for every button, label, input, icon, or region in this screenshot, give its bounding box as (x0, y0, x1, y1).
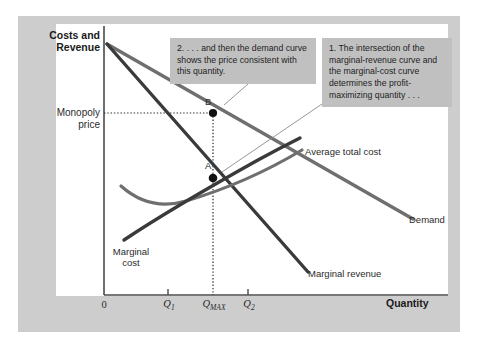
point-b-label: B (205, 96, 211, 107)
point-a-marker (209, 174, 218, 183)
x-tick-label-q2: Q2 (235, 298, 263, 313)
x-tick-q2-subscript: 2 (251, 303, 255, 312)
x-axis-title: Quantity (386, 297, 429, 309)
point-b-marker (209, 109, 217, 117)
x-tick-q2-letter: Q (243, 298, 251, 309)
x-tick-qmax-subscript: MAX (210, 303, 225, 312)
callout-box-1: 1. The intersection of the marginal-reve… (322, 38, 452, 107)
point-a-label: A (205, 160, 211, 171)
x-tick-q1-subscript: 1 (171, 303, 175, 312)
x-tick-label-qmax: QMAX (191, 298, 237, 313)
x-tick-qmax-letter: Q (202, 298, 210, 309)
x-tick-q1-letter: Q (163, 298, 171, 309)
marginal-cost-curve (124, 138, 300, 240)
y-axis-title: Costs and Revenue (34, 29, 100, 54)
monopoly-diagram: Costs and Revenue Quantity Monopoly pric… (0, 0, 482, 345)
marginal-cost-label: Marginal cost (104, 246, 158, 268)
x-tick-label-origin: 0 (90, 299, 118, 311)
x-tick-label-q1: Q1 (155, 298, 183, 313)
average-total-cost-label: Average total cost (305, 146, 381, 157)
monopoly-price-label: Monopoly price (30, 107, 100, 131)
callout-box-2: 2. . . . and then the demand curve shows… (170, 38, 316, 84)
demand-label: Demand (409, 214, 445, 225)
marginal-revenue-label: Marginal revenue (308, 268, 381, 279)
callout-2-leader (224, 84, 248, 105)
callout-1-leader (222, 104, 322, 172)
